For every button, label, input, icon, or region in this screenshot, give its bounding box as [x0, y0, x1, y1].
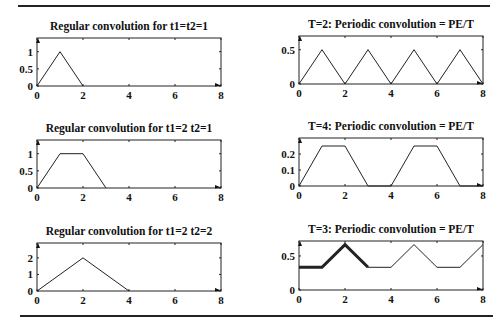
x-tick-label: 6: [434, 87, 440, 99]
x-tick-label: 0: [296, 87, 302, 99]
subplot-1: Regular convolution for t1=t2=10246800.5…: [19, 20, 224, 101]
x-tick-label: 0: [296, 189, 302, 201]
subplot-title: T=2: Periodic convolution = PE/T: [308, 18, 474, 30]
subplot-5: Regular convolution for t1=2 t2=20246801…: [28, 225, 225, 306]
y-tick-label: 0.5: [19, 63, 33, 75]
series-line-periodic: [299, 146, 483, 186]
axes-box: [37, 38, 221, 86]
x-tick-label: 6: [434, 293, 440, 305]
y-tick-label: 0.5: [19, 165, 33, 177]
x-tick-label: 2: [80, 294, 86, 306]
x-tick-label: 6: [172, 89, 178, 101]
series-line-conv: [37, 154, 106, 188]
axes-box: [37, 140, 221, 188]
subplot-2: T=2: Periodic convolution = PE/T0246800.…: [281, 18, 486, 99]
y-tick-label: 0.2: [281, 148, 295, 160]
y-tick-label: 0: [28, 285, 34, 297]
x-tick-label: 4: [126, 89, 132, 101]
y-tick-label: 1: [28, 268, 34, 280]
y-tick-label: 0: [290, 180, 296, 192]
x-tick-label: 8: [218, 191, 224, 203]
y-tick-label: 0.5: [281, 44, 295, 56]
series-line-conv: [37, 258, 129, 291]
x-tick-label: 6: [172, 294, 178, 306]
y-tick-label: 2: [28, 252, 34, 264]
subplot-6: T=3: Periodic convolution = PE/T0246800.…: [281, 223, 486, 305]
x-tick-label: 2: [342, 87, 348, 99]
subplot-title: Regular convolution for t1=2 t2=2: [46, 225, 213, 238]
x-tick-label: 6: [172, 191, 178, 203]
y-tick-label: 0: [28, 80, 34, 92]
x-tick-label: 4: [126, 191, 132, 203]
x-tick-label: 0: [34, 191, 40, 203]
y-tick-label: 1: [28, 46, 34, 58]
x-tick-label: 0: [296, 293, 302, 305]
series-line-one-period-highlight: [299, 245, 368, 268]
x-tick-label: 4: [126, 294, 132, 306]
x-tick-label: 8: [480, 293, 486, 305]
subplot-title: Regular convolution for t1=2 t2=1: [46, 122, 213, 135]
series-line-conv: [37, 52, 83, 86]
x-tick-label: 2: [342, 293, 348, 305]
subplot-title: T=4: Periodic convolution = PE/T: [308, 120, 474, 132]
convolution-figure: Regular convolution for t1=t2=10246800.5…: [0, 0, 503, 328]
y-tick-label: 0.1: [281, 164, 295, 176]
axes-box: [299, 241, 483, 290]
x-tick-label: 4: [388, 189, 394, 201]
x-tick-label: 0: [34, 294, 40, 306]
axes-box: [299, 36, 483, 84]
x-tick-label: 2: [80, 89, 86, 101]
x-tick-label: 4: [388, 293, 394, 305]
subplot-4: T=4: Periodic convolution = PE/T0246800.…: [281, 120, 486, 201]
x-tick-label: 6: [434, 189, 440, 201]
subplot-title: Regular convolution for t1=t2=1: [50, 20, 208, 33]
y-tick-label: 0.5: [281, 250, 295, 262]
x-tick-label: 8: [480, 189, 486, 201]
y-tick-label: 1: [28, 148, 34, 160]
x-tick-label: 0: [34, 89, 40, 101]
x-tick-label: 8: [480, 87, 486, 99]
subplot-title: T=3: Periodic convolution = PE/T: [308, 223, 474, 235]
x-tick-label: 8: [218, 294, 224, 306]
series-line-periodic: [299, 50, 483, 84]
axes-box: [37, 243, 221, 291]
y-tick-label: 0: [290, 78, 296, 90]
y-tick-label: 0: [28, 182, 34, 194]
subplot-3: Regular convolution for t1=2 t2=10246800…: [19, 122, 224, 203]
y-tick-label: 0: [290, 284, 296, 296]
x-tick-label: 2: [342, 189, 348, 201]
x-tick-label: 8: [218, 89, 224, 101]
x-tick-label: 2: [80, 191, 86, 203]
x-tick-label: 4: [388, 87, 394, 99]
